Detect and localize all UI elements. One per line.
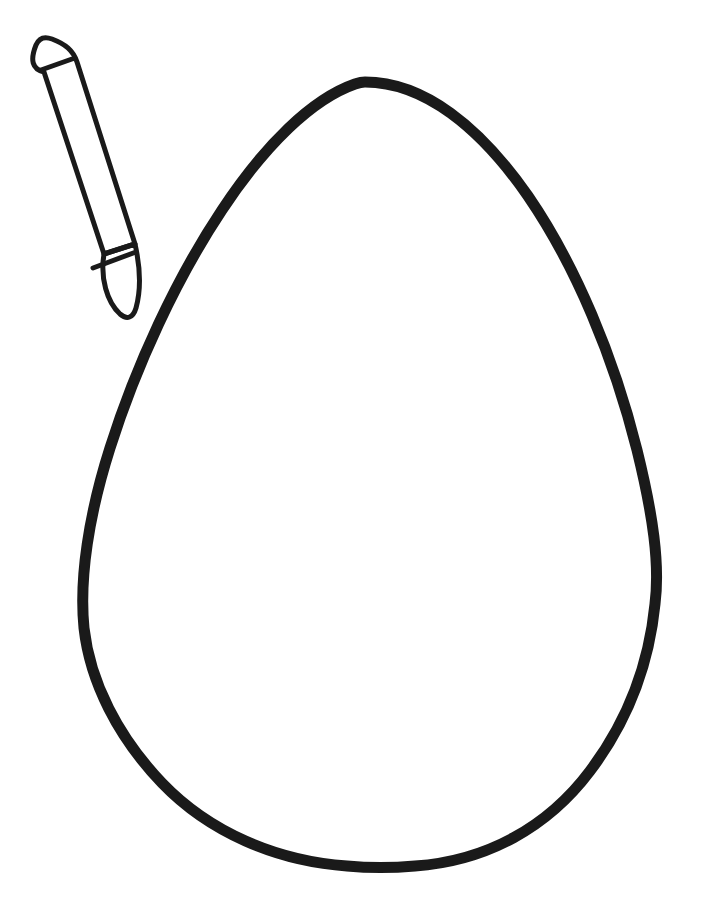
artwork-svg xyxy=(0,0,704,898)
coloring-page-canvas: Egg Outline Coloring Template Blank egg … xyxy=(0,0,704,898)
